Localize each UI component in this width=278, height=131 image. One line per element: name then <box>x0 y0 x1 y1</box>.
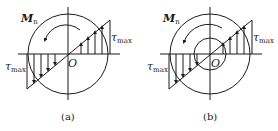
torsion-stress-diagram <box>0 0 278 131</box>
torque-arrow <box>45 25 80 40</box>
tau-max-left-a: τmax <box>5 61 26 74</box>
caption-a: (a) <box>61 112 75 122</box>
moment-label-a: Mn <box>21 13 38 26</box>
caption-b: (b) <box>203 112 217 122</box>
center-label-b: O <box>211 58 220 69</box>
tau-max-right-b: τmax <box>253 32 274 45</box>
tau-max-left-b: τmax <box>147 61 168 74</box>
moment-label-b: Mn <box>163 13 180 26</box>
center-label-a: O <box>68 58 77 69</box>
tau-max-right-a: τmax <box>111 32 132 45</box>
